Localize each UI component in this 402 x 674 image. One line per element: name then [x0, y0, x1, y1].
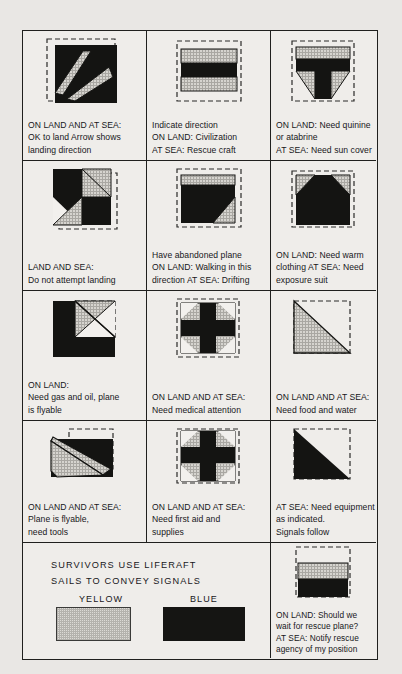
caption-line: ON LAND AND AT SEA:: [28, 119, 144, 131]
signal-row-5: SURVIVORS USE LIFERAFT SAILS TO CONVEY S…: [23, 543, 377, 658]
caption-line: LAND AND SEA:: [28, 261, 144, 273]
liferaft-title-line: SAILS TO CONVEY SIGNALS: [51, 573, 201, 589]
caption-line: ON LAND: Walking in this: [152, 261, 268, 273]
signal-row-4: ON LAND AND AT SEA: Plane is flyable, ne…: [23, 421, 377, 543]
signal-caption: ON LAND: Need warm clothing AT SEA: Need…: [276, 249, 374, 286]
signal-cell-indicate-direction[interactable]: Indicate direction ON LAND: Civilization…: [147, 31, 271, 161]
caption-line: Need food and water: [276, 404, 374, 416]
liferaft-panel: SURVIVORS USE LIFERAFT SAILS TO CONVEY S…: [23, 543, 271, 658]
liferaft-title: SURVIVORS USE LIFERAFT SAILS TO CONVEY S…: [51, 557, 201, 589]
signal-cell-need-warm-clothing[interactable]: ON LAND: Need warm clothing AT SEA: Need…: [271, 161, 376, 291]
signal-caption: ON LAND: Should we wait for rescue plane…: [276, 610, 374, 656]
symbol-abandoned-plane-block: [147, 167, 270, 241]
signal-cell-ok-to-land[interactable]: ON LAND AND AT SEA: OK to land Arrow sho…: [23, 31, 147, 161]
caption-line: or atabrine: [276, 131, 374, 143]
caption-line: AT SEA: Notify rescue: [276, 633, 374, 645]
signal-caption: AT SEA: Need equipment as indicated. Sig…: [276, 501, 374, 538]
caption-line: landing direction: [28, 144, 144, 156]
signal-row-1: ON LAND AND AT SEA: OK to land Arrow sho…: [23, 31, 377, 161]
swatch-label-yellow: YELLOW: [79, 594, 123, 604]
signal-caption: LAND AND SEA: Do not attempt landing: [28, 261, 144, 286]
swatch-blue: [163, 607, 245, 641]
caption-line: Have abandoned plane: [152, 249, 268, 261]
symbol-indicate-direction-bars: [147, 37, 270, 113]
signal-cell-need-food-water[interactable]: ON LAND AND AT SEA: Need food and water: [271, 291, 376, 421]
caption-line: direction AT SEA: Drifting: [152, 274, 268, 286]
signal-caption: ON LAND: Need quinine or atabrine AT SEA…: [276, 119, 374, 156]
signal-cell-need-equipment[interactable]: AT SEA: Need equipment as indicated. Sig…: [271, 421, 376, 543]
symbol-need-medical-cross: [147, 297, 270, 371]
caption-line: AT SEA: Need sun cover: [276, 144, 374, 156]
caption-line: OK to land Arrow shows: [28, 131, 144, 143]
caption-line: need tools: [28, 526, 144, 538]
signal-cell-abandoned-plane[interactable]: Have abandoned plane ON LAND: Walking in…: [147, 161, 271, 291]
swatch-yellow: [56, 607, 131, 641]
caption-line: ON LAND AND AT SEA:: [28, 501, 144, 513]
signal-cell-do-not-land[interactable]: LAND AND SEA: Do not attempt landing: [23, 161, 147, 291]
signal-caption: ON LAND AND AT SEA: OK to land Arrow sho…: [28, 119, 144, 156]
signal-caption: Have abandoned plane ON LAND: Walking in…: [152, 249, 268, 286]
signal-cell-need-first-aid[interactable]: ON LAND AND AT SEA: Need first aid and s…: [147, 421, 271, 543]
caption-line: ON LAND: Should we: [276, 610, 374, 622]
caption-line: Plane is flyable,: [28, 513, 144, 525]
caption-line: supplies: [152, 526, 268, 538]
caption-line: is flyable: [28, 404, 144, 416]
signal-row-2: LAND AND SEA: Do not attempt landing Hav…: [23, 161, 377, 291]
caption-line: Do not attempt landing: [28, 274, 144, 286]
caption-line: Need medical attention: [152, 404, 268, 416]
signal-caption: ON LAND AND AT SEA: Need first aid and s…: [152, 501, 268, 538]
signal-caption: ON LAND: Need gas and oil, plane is flya…: [28, 379, 144, 416]
signal-cell-plane-flyable[interactable]: ON LAND AND AT SEA: Plane is flyable, ne…: [23, 421, 147, 543]
caption-line: ON LAND AND AT SEA:: [152, 391, 268, 403]
symbol-need-first-aid-cross: [147, 427, 270, 495]
caption-line: ON LAND:: [28, 379, 144, 391]
caption-line: ON LAND: Need warm: [276, 249, 374, 261]
signal-code-sheet: ON LAND AND AT SEA: OK to land Arrow sho…: [22, 30, 378, 660]
symbol-need-food-water-triangle: [271, 297, 376, 371]
signal-cell-need-gas-oil[interactable]: ON LAND: Need gas and oil, plane is flya…: [23, 291, 147, 421]
caption-line: AT SEA: Need equipment: [276, 501, 374, 513]
signal-row-3: ON LAND: Need gas and oil, plane is flya…: [23, 291, 377, 421]
caption-line: AT SEA: Rescue craft: [152, 144, 268, 156]
caption-line: Indicate direction: [152, 119, 268, 131]
caption-line: as indicated.: [276, 513, 374, 525]
symbol-ok-to-land-arrow: [23, 37, 146, 113]
symbol-need-equipment-triangle: [271, 427, 376, 493]
symbol-need-quinine-tee: [271, 37, 376, 113]
caption-line: Need gas and oil, plane: [28, 391, 144, 403]
caption-line: Need first aid and: [152, 513, 268, 525]
caption-line: ON LAND AND AT SEA:: [276, 391, 374, 403]
caption-line: ON LAND: Need quinine: [276, 119, 374, 131]
caption-line: Signals follow: [276, 526, 374, 538]
symbol-need-warm-clothing-house: [271, 167, 376, 241]
signal-cell-need-medical[interactable]: ON LAND AND AT SEA: Need medical attenti…: [147, 291, 271, 421]
caption-line: wait for rescue plane?: [276, 621, 374, 633]
signal-caption: ON LAND AND AT SEA: Need food and water: [276, 391, 374, 416]
signal-caption: Indicate direction ON LAND: Civilization…: [152, 119, 268, 156]
caption-line: agency of my position: [276, 644, 374, 656]
signal-cell-need-quinine[interactable]: ON LAND: Need quinine or atabrine AT SEA…: [271, 31, 376, 161]
symbol-need-gas-oil-notch: [23, 297, 146, 371]
signal-caption: ON LAND AND AT SEA: Need medical attenti…: [152, 391, 268, 416]
caption-line: exposure suit: [276, 274, 374, 286]
caption-line: ON LAND AND AT SEA:: [152, 501, 268, 513]
symbol-wait-for-rescue-bars: [271, 545, 376, 607]
symbol-plane-flyable-wedge: [23, 427, 146, 493]
liferaft-title-line: SURVIVORS USE LIFERAFT: [51, 557, 201, 573]
swatch-label-blue: BLUE: [190, 594, 218, 604]
caption-line: clothing AT SEA: Need: [276, 261, 374, 273]
signal-cell-wait-for-rescue[interactable]: ON LAND: Should we wait for rescue plane…: [271, 543, 376, 658]
caption-line: ON LAND: Civilization: [152, 131, 268, 143]
symbol-do-not-land-checker: [23, 167, 146, 241]
signal-caption: ON LAND AND AT SEA: Plane is flyable, ne…: [28, 501, 144, 538]
